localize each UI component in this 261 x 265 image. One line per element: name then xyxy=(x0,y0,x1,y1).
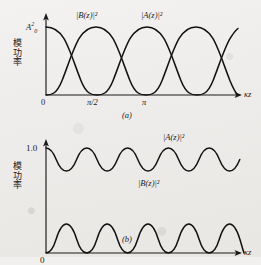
chart-a-svg xyxy=(0,0,261,128)
chart-b-ytick-0: 0 xyxy=(40,256,45,265)
chart-a-xtick-0: 0 xyxy=(41,98,45,107)
chart-a-panel-tag: (a) xyxy=(122,110,132,120)
chart-b-ytick-1: 1.0 xyxy=(26,144,37,153)
chart-b-panel-tag: (b) xyxy=(122,234,132,244)
chart-a-x-axis-label: κz xyxy=(244,90,251,99)
curve-b-mod-A-squared xyxy=(46,148,240,171)
chart-b-x-axis-label: κz xyxy=(244,248,251,257)
chart-b-label-A: |A(z)|² xyxy=(163,133,184,142)
chart-a-y-axis xyxy=(43,13,49,95)
chart-panel-a: A20 |B(z)|² |A(z)|² 0 π/2 π κz 模功率 (a) xyxy=(0,0,261,128)
chart-panel-b: 1.0 0 |A(z)|² |B(z)|² κz 模功率 (b) xyxy=(0,126,261,257)
chart-a-y-axis-label: 模功率 xyxy=(12,38,21,67)
curve-a-mod-A-squared xyxy=(46,27,238,95)
chart-a-xtick-pi-over-2: π/2 xyxy=(87,98,98,107)
curve-a-mod-B-squared xyxy=(46,27,238,95)
chart-a-label-A: |A(z)|² xyxy=(141,11,162,20)
chart-a-y-axis-max-label: A20 xyxy=(26,21,37,34)
chart-b-y-axis-label: 模功率 xyxy=(12,161,21,190)
chart-b-label-B: |B(z)|² xyxy=(138,179,159,188)
chart-a-xtick-pi: π xyxy=(142,98,146,107)
chart-b-y-axis xyxy=(43,139,49,253)
chart-a-label-B: |B(z)|² xyxy=(76,11,97,20)
curve-b-mod-B-squared xyxy=(46,224,244,253)
